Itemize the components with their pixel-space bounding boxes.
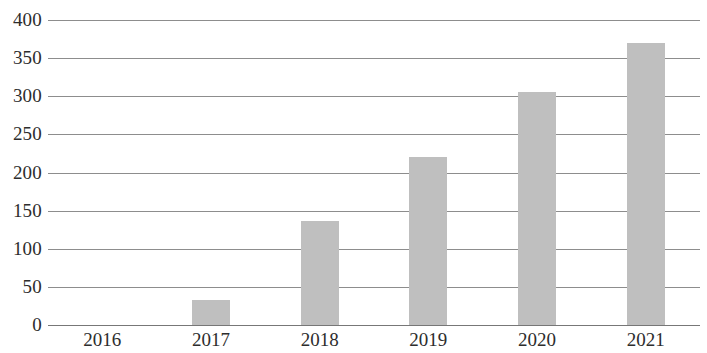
bar-2019	[409, 157, 447, 325]
bar-2021	[627, 43, 665, 325]
x-tick-label-2016: 2016	[47, 328, 157, 352]
bar-chart: 050100150200250300350400 201620172018201…	[0, 0, 707, 353]
bar-2018	[301, 221, 339, 325]
y-tick-label: 100	[2, 239, 42, 258]
y-tick-label: 350	[2, 48, 42, 67]
x-axis: 201620172018201920202021	[48, 328, 700, 353]
plot-area	[48, 0, 700, 353]
y-tick-label: 400	[2, 10, 42, 29]
y-tick-label: 150	[2, 201, 42, 220]
bar-2020	[518, 92, 556, 325]
y-tick-label: 50	[2, 277, 42, 296]
bar-2017	[192, 300, 230, 325]
x-tick-label-2018: 2018	[265, 328, 375, 352]
bars-group	[48, 0, 700, 353]
x-tick-label-2020: 2020	[482, 328, 592, 352]
x-tick-label-2021: 2021	[591, 328, 701, 352]
x-tick-label-2019: 2019	[373, 328, 483, 352]
y-tick-label: 300	[2, 86, 42, 105]
y-axis: 050100150200250300350400	[0, 0, 42, 353]
y-tick-label: 250	[2, 124, 42, 143]
x-tick-label-2017: 2017	[156, 328, 266, 352]
y-tick-label: 200	[2, 163, 42, 182]
y-tick-label: 0	[2, 315, 42, 334]
